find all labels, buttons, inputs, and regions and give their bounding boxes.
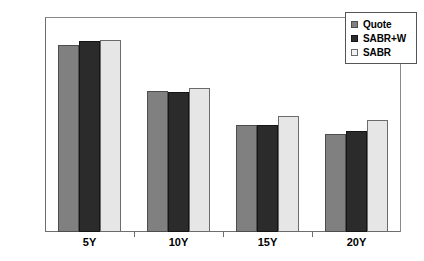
bar-20Y-quote: [325, 134, 346, 232]
x-axis: 5Y10Y15Y20Y: [45, 236, 401, 256]
bar-10Y-sabr: [189, 88, 210, 232]
legend-swatch-icon: [351, 35, 358, 42]
bar-20Y-sabr: [367, 120, 388, 232]
bar-5Y-sabr-w: [79, 41, 100, 232]
legend-swatch-icon: [351, 21, 358, 28]
y-axis: 160 120 80 40 0: [0, 0, 45, 261]
x-tick-label: 10Y: [169, 236, 189, 248]
bar-20Y-sabr-w: [346, 131, 367, 232]
legend-label: SABR+W: [363, 33, 406, 44]
legend-label: SABR: [363, 47, 391, 58]
legend-item-quote[interactable]: Quote: [351, 17, 412, 31]
scan-artifact-band: [0, 0, 424, 8]
x-tick-label: 15Y: [258, 236, 278, 248]
bar-5Y-quote: [58, 45, 79, 232]
bar-15Y-sabr-w: [257, 125, 278, 233]
bar-chart: 160 120 80 40 0 5Y10Y15Y20Y Quote: [0, 0, 424, 261]
legend: Quote SABR+W SABR: [345, 12, 417, 64]
bar-5Y-sabr: [100, 40, 121, 232]
bar-10Y-quote: [147, 91, 168, 232]
x-tick-label: 5Y: [83, 236, 96, 248]
x-tick-label: 20Y: [347, 236, 367, 248]
bar-10Y-sabr-w: [168, 92, 189, 232]
legend-item-sabrw[interactable]: SABR+W: [351, 31, 412, 45]
legend-swatch-icon: [351, 49, 358, 56]
legend-item-sabr[interactable]: SABR: [351, 45, 412, 59]
bar-15Y-sabr: [278, 116, 299, 232]
legend-label: Quote: [363, 19, 391, 30]
bar-15Y-quote: [236, 125, 257, 233]
